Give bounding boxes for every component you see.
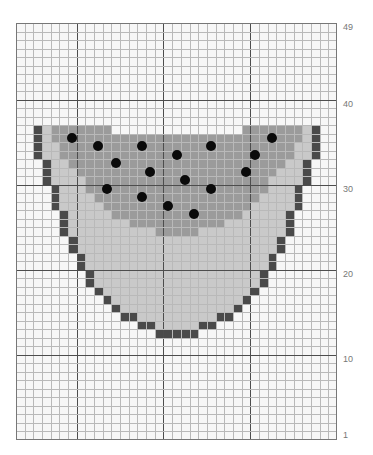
grid-vline	[328, 23, 329, 440]
cell-medium	[216, 185, 225, 194]
cell-light	[302, 151, 311, 160]
cell-dark	[311, 134, 320, 143]
cell-medium	[250, 125, 259, 134]
cell-light	[163, 261, 172, 270]
cell-light	[42, 125, 51, 134]
cell-medium	[198, 168, 207, 177]
grid-vline	[216, 23, 217, 440]
grid-hline	[16, 40, 337, 41]
cell-light	[103, 244, 112, 253]
cell-medium	[190, 185, 199, 194]
cell-light	[111, 236, 120, 245]
cell-medium	[172, 134, 181, 143]
seed-dot	[93, 141, 103, 151]
cell-light	[77, 185, 86, 194]
cell-light	[216, 295, 225, 304]
row-label: 1	[343, 430, 348, 440]
cell-light	[224, 287, 233, 296]
grid-vline	[94, 23, 95, 440]
cell-dark	[276, 236, 285, 245]
cell-medium	[68, 142, 77, 151]
cell-light	[216, 304, 225, 313]
cell-medium	[120, 210, 129, 219]
cell-light	[259, 244, 268, 253]
cell-light	[207, 295, 216, 304]
seed-dot	[111, 158, 121, 168]
cell-light	[77, 176, 86, 185]
cell-light	[94, 253, 103, 262]
cell-light	[94, 210, 103, 219]
cell-light	[42, 151, 51, 160]
cell-light	[68, 210, 77, 219]
cell-medium	[146, 142, 155, 151]
cell-medium	[94, 151, 103, 160]
cell-medium	[120, 151, 129, 160]
cell-light	[94, 278, 103, 287]
cell-light	[120, 253, 129, 262]
cell-light	[68, 185, 77, 194]
cell-medium	[233, 151, 242, 160]
cell-light	[94, 227, 103, 236]
cell-medium	[129, 202, 138, 211]
grid-hline	[16, 210, 337, 211]
cell-dark	[42, 176, 51, 185]
cell-light	[207, 236, 216, 245]
cell-light	[242, 278, 251, 287]
cell-medium	[111, 134, 120, 143]
cell-light	[216, 227, 225, 236]
grid-hline	[16, 108, 337, 109]
grid-vline	[276, 23, 277, 440]
cell-light	[103, 236, 112, 245]
cell-dark	[33, 134, 42, 143]
cell-dark	[259, 278, 268, 287]
cell-light	[181, 236, 190, 245]
cell-medium	[224, 142, 233, 151]
cell-medium	[155, 159, 164, 168]
cell-light	[103, 253, 112, 262]
cell-medium	[77, 151, 86, 160]
grid-hline	[16, 125, 337, 126]
cell-medium	[85, 125, 94, 134]
seed-dot	[102, 184, 112, 194]
cell-dark	[85, 270, 94, 279]
grid-vline	[233, 23, 234, 440]
cell-dark	[302, 176, 311, 185]
grid-vline	[137, 23, 138, 440]
cell-light	[129, 287, 138, 296]
cell-medium	[233, 176, 242, 185]
cell-medium	[207, 219, 216, 228]
cell-light	[216, 236, 225, 245]
cell-medium	[155, 151, 164, 160]
cell-light	[103, 270, 112, 279]
cell-light	[207, 261, 216, 270]
seed-dot	[137, 192, 147, 202]
cell-light	[51, 168, 60, 177]
cell-light	[163, 295, 172, 304]
cell-dark	[163, 329, 172, 338]
grid-vline	[33, 23, 34, 440]
cell-light	[129, 253, 138, 262]
cell-light	[111, 287, 120, 296]
cell-medium	[172, 168, 181, 177]
cell-medium	[129, 210, 138, 219]
cell-medium	[51, 134, 60, 143]
cell-light	[137, 287, 146, 296]
cell-light	[111, 253, 120, 262]
cell-light	[172, 321, 181, 330]
cell-medium	[59, 125, 68, 134]
cell-light	[172, 270, 181, 279]
cell-medium	[120, 168, 129, 177]
cell-medium	[129, 134, 138, 143]
cell-light	[198, 295, 207, 304]
cell-light	[163, 321, 172, 330]
cell-medium	[216, 142, 225, 151]
cell-light	[250, 253, 259, 262]
cell-light	[198, 312, 207, 321]
cell-medium	[285, 142, 294, 151]
cell-medium	[224, 210, 233, 219]
grid-vline	[294, 23, 295, 440]
cell-light	[250, 219, 259, 228]
cell-light	[85, 261, 94, 270]
cell-medium	[190, 151, 199, 160]
seed-dot	[206, 141, 216, 151]
